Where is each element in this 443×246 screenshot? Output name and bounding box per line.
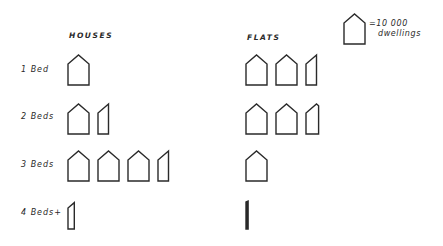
house-icon [276, 104, 297, 134]
partial-house-icon [306, 104, 319, 134]
house-icon [276, 55, 297, 85]
house-icon [246, 55, 267, 85]
house-icon [98, 151, 119, 181]
house-icon [246, 151, 267, 181]
legend-house-icon [344, 14, 365, 44]
partial-house-icon [98, 104, 109, 134]
partial-house-icon [306, 55, 317, 85]
house-icon [246, 104, 267, 134]
house-icon [68, 151, 89, 181]
partial-house-icon [158, 151, 169, 181]
house-icon [128, 151, 149, 181]
partial-house-icon [68, 203, 74, 229]
pictogram-plot [0, 0, 443, 246]
house-icon [68, 55, 89, 85]
house-icon [68, 104, 89, 134]
partial-house-icon [246, 201, 248, 229]
